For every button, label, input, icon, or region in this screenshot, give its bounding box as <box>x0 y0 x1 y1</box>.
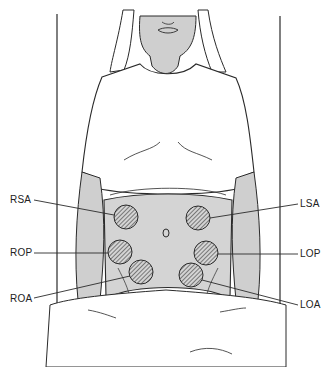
label-lop: LOP <box>300 249 321 259</box>
position-circle-lop <box>194 241 218 265</box>
position-circle-lsa <box>186 206 210 230</box>
position-circle-rsa <box>114 205 138 229</box>
label-roa: ROA <box>10 294 32 304</box>
t-shirt <box>82 64 254 194</box>
label-lsa: LSA <box>300 199 320 209</box>
face-neck <box>139 16 196 74</box>
label-rsa: RSA <box>10 195 31 205</box>
position-circle-roa <box>129 260 153 284</box>
position-circle-rop <box>108 240 132 264</box>
position-circle-loa <box>179 263 203 287</box>
navel <box>163 229 169 237</box>
label-loa: LOA <box>300 300 321 310</box>
bed-sheet <box>46 290 286 367</box>
fetal-position-diagram <box>0 0 332 367</box>
label-rop: ROP <box>10 248 32 258</box>
